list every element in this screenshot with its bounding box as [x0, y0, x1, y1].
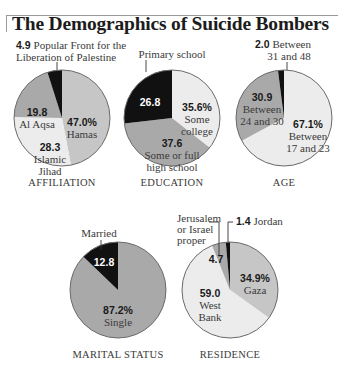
leader-line [228, 222, 233, 242]
slice-value: 4.7 [209, 253, 224, 265]
slice-value: 26.8 [140, 96, 161, 108]
pie-education: 35.6%Somecollege37.6Some or fullhigh sch… [124, 48, 220, 188]
slice-label: Jihad [38, 165, 62, 177]
slice-value: 37.6 [162, 137, 183, 149]
slice-label: Liberation of Palestine [16, 51, 116, 63]
slice-value: 19.8 [27, 106, 48, 118]
slice-label: Some or full [145, 149, 200, 161]
slice-label: Al Aqsa [19, 118, 55, 130]
slice-label: 24 and 30 [240, 115, 284, 127]
slice-value: 67.1% [293, 118, 323, 130]
slice-label: Single [104, 316, 132, 328]
slice-label: Hamas [67, 128, 98, 140]
slice-value: 30.9 [252, 91, 273, 103]
slice-label: Gaza [244, 284, 267, 296]
chart-caption: MARITAL STATUS [72, 349, 163, 360]
slice-label: Married [81, 227, 117, 239]
chart-caption: RESIDENCE [200, 349, 260, 360]
chart-caption: AFFILIATION [28, 177, 96, 188]
slice-label: 2.0 Between [255, 38, 311, 50]
slice-label: Primary school [139, 48, 206, 60]
chart-caption: EDUCATION [141, 177, 204, 188]
slice-label: high school [146, 161, 197, 173]
slice-value: 12.8 [94, 256, 115, 268]
slice-label: Bank [198, 311, 222, 323]
slice-label: 31 and 48 [267, 50, 311, 62]
slice-value: 87.2% [103, 304, 133, 316]
pie-residence: 34.9%Gaza59.0WestBankJerusalemor Israelp… [177, 212, 283, 360]
slice-value: 28.3 [40, 141, 61, 153]
slice-label: Between [243, 103, 282, 115]
slice-value: 59.0 [200, 287, 221, 299]
slice-value: 34.9% [240, 272, 270, 284]
pie-affiliation: 47.0%Hamas28.3IslamicJihad19.8Al Aqsa4.9… [14, 39, 126, 188]
slice-label: 17 and 23 [286, 142, 330, 154]
chart-caption: AGE [273, 177, 295, 188]
slice-label: Some [184, 113, 209, 125]
slice-value: 35.6% [182, 101, 212, 113]
pie-marital-status: 87.2%Single12.8MarriedMARITAL STATUS [70, 227, 166, 360]
slice-label: 1.4 Jordan [236, 215, 283, 227]
slice-label: West [199, 299, 221, 311]
pie-age: 67.1%Between17 and 2330.9Between24 and 3… [236, 38, 332, 188]
slice-label: college [181, 125, 213, 137]
slice-label: proper [177, 234, 206, 246]
slice-label: Islamic [34, 153, 66, 165]
slice-label: Between [289, 130, 328, 142]
pie-charts: 47.0%Hamas28.3IslamicJihad19.8Al Aqsa4.9… [0, 0, 344, 372]
slice-label: 4.9 Popular Front for the [16, 39, 126, 51]
slice-value: 47.0% [67, 116, 97, 128]
